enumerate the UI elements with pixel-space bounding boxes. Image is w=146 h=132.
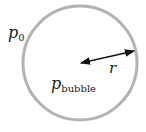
outside-pressure-label: p0 [8,23,25,43]
bubble-circle [23,6,137,120]
inside-pressure-label: pbubble [51,74,96,94]
bubble-diagram: p0 r pbubble [0,0,146,132]
radius-label: r [109,59,117,77]
radius-arrow [81,51,134,63]
